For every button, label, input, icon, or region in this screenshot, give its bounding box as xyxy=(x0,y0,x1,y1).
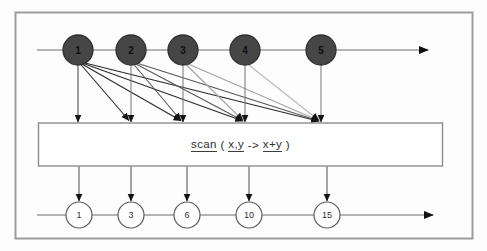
output-marble-1-value: 1 xyxy=(76,210,81,220)
output-marble-5-value: 15 xyxy=(322,210,332,220)
output-marble-2-value: 3 xyxy=(128,210,133,220)
output-marble-3-value: 6 xyxy=(184,210,189,220)
output-marble-4-value: 10 xyxy=(244,210,254,220)
output-drop-arrows xyxy=(79,167,327,202)
input-marble-1-value: 1 xyxy=(75,45,81,56)
input-marble-2-value: 2 xyxy=(128,45,134,56)
input-marble-4-value: 4 xyxy=(242,45,248,56)
input-marble-3-value: 3 xyxy=(180,45,186,56)
fan-from-marble-3 xyxy=(185,63,319,121)
operator-arrow-token: -> xyxy=(244,139,263,151)
operator-fn-name: scan xyxy=(191,138,217,152)
input-marble-5-value: 5 xyxy=(318,45,324,56)
operator-args: x,y xyxy=(228,138,244,152)
operator-label: scan ( x,y -> x+y ) xyxy=(38,123,443,166)
operator-close-paren: ) xyxy=(282,139,290,151)
diagram-canvas: 1 2 3 4 5 1 3 6 xyxy=(0,0,487,251)
operator-open-paren: ( xyxy=(217,139,228,151)
operator-body: x+y xyxy=(263,138,282,152)
